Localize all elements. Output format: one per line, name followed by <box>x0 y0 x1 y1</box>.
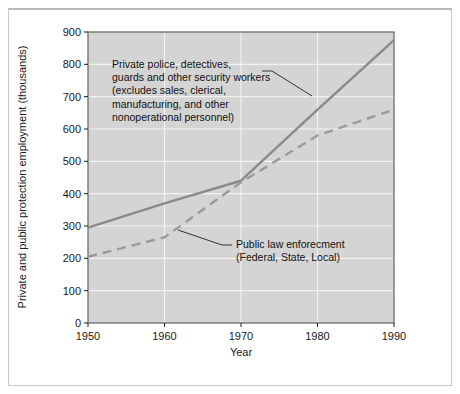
y-tick-label-0: 0 <box>75 317 81 329</box>
private-annotation-line-2: (excludes sales, clerical, <box>112 84 226 96</box>
chart-page: 0100200300400500600700800900 19501960197… <box>0 0 460 394</box>
y-tick-label-400: 400 <box>63 188 81 200</box>
x-tick-label-1980: 1980 <box>305 330 329 342</box>
y-tick-label-600: 600 <box>63 123 81 135</box>
x-tick-label-1970: 1970 <box>229 330 253 342</box>
chart-figure: 0100200300400500600700800900 19501960197… <box>0 0 460 394</box>
private-annotation-line-3: manufacturing, and other <box>112 98 229 110</box>
public-annotation-text: Public law enforecment(Federal, State, L… <box>236 238 345 263</box>
line-chart-svg: 0100200300400500600700800900 19501960197… <box>0 0 460 394</box>
private-annotation-line-1: guards and other security workers <box>112 71 270 83</box>
x-tick-label-1960: 1960 <box>152 330 176 342</box>
public-annotation-line-1: (Federal, State, Local) <box>236 251 340 263</box>
x-tick-label-1950: 1950 <box>76 330 100 342</box>
y-tick-label-500: 500 <box>63 155 81 167</box>
y-tick-label-900: 900 <box>63 26 81 38</box>
private-annotation-line-0: Private police, detectives, <box>112 58 231 70</box>
x-tick-label-1990: 1990 <box>382 330 406 342</box>
y-tick-label-300: 300 <box>63 220 81 232</box>
x-axis-tick-labels: 19501960197019801990 <box>76 323 406 342</box>
y-tick-label-100: 100 <box>63 285 81 297</box>
x-axis-title: Year <box>230 346 253 358</box>
private-annotation-line-4: nonoperational personnel) <box>112 111 234 123</box>
y-tick-label-200: 200 <box>63 252 81 264</box>
y-tick-label-800: 800 <box>63 58 81 70</box>
y-tick-label-700: 700 <box>63 91 81 103</box>
y-axis-tick-labels: 0100200300400500600700800900 <box>63 26 88 329</box>
public-annotation-line-0: Public law enforecment <box>236 238 345 250</box>
y-axis-title: Private and public protection employment… <box>16 46 28 309</box>
